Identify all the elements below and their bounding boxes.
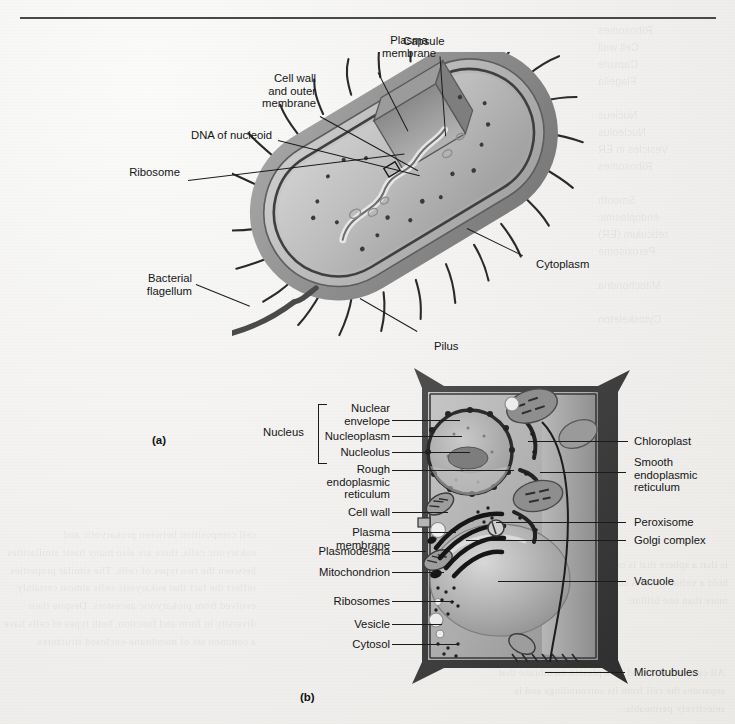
label-peroxisome: Peroxisome bbox=[634, 516, 694, 529]
leader-nuclear-envelope bbox=[392, 420, 460, 421]
label-nucleus-group: Nucleus bbox=[263, 426, 304, 439]
plasmodesma-channel bbox=[418, 518, 430, 527]
label-capsule: Capsule bbox=[403, 35, 444, 48]
label-nuclear-envelope: Nuclear envelope bbox=[330, 402, 390, 427]
label-nucleolus: Nucleolus bbox=[322, 446, 390, 459]
leader-plasmodesma bbox=[392, 551, 426, 552]
label-cell-wall-b: Cell wall bbox=[320, 506, 390, 519]
leader-nucleolus bbox=[392, 452, 470, 453]
leader-vacuole bbox=[498, 581, 626, 582]
label-ribosomes-b: Ribosomes bbox=[318, 595, 390, 608]
leader-cytosol bbox=[392, 644, 458, 645]
label-bacterial-flagellum: Bacterial flagellum bbox=[110, 272, 192, 297]
label-golgi-complex: Golgi complex bbox=[634, 534, 706, 547]
label-mitochondrion: Mitochondrion bbox=[296, 566, 390, 579]
label-rough-er: Rough endoplasmic reticulum bbox=[300, 463, 390, 501]
label-smooth-er: Smooth endoplasmic reticulum bbox=[634, 456, 697, 494]
plant-cell-illustration bbox=[392, 362, 642, 692]
label-cytosol: Cytosol bbox=[332, 638, 390, 651]
label-ribosome: Ribosome bbox=[100, 166, 180, 179]
label-pilus: Pilus bbox=[434, 340, 459, 353]
leader-golgi-complex bbox=[466, 540, 626, 541]
figure-a-caption: (a) bbox=[152, 434, 166, 446]
leader-peroxisome bbox=[496, 522, 626, 523]
label-dna-nucleoid: DNA of nucleoid bbox=[172, 129, 272, 142]
figure-b-caption: (b) bbox=[300, 691, 315, 703]
leader-chloroplast bbox=[528, 441, 628, 442]
label-vesicle: Vesicle bbox=[334, 618, 390, 631]
leader-vesicle bbox=[392, 624, 442, 625]
leader-smooth-er bbox=[540, 472, 626, 473]
label-cytoplasm: Cytoplasm bbox=[536, 258, 589, 271]
label-chloroplast: Chloroplast bbox=[634, 435, 691, 448]
nucleolus bbox=[448, 447, 488, 469]
leader-microtubules bbox=[545, 672, 625, 673]
label-nucleoplasm: Nucleoplasm bbox=[308, 430, 390, 443]
leader-cell-wall-b bbox=[392, 512, 448, 513]
leader-plasma-membrane-b bbox=[392, 532, 456, 533]
leader-nucleoplasm bbox=[392, 436, 462, 437]
leader-rough-er bbox=[392, 470, 514, 471]
label-microtubules: Microtubules bbox=[634, 666, 698, 679]
label-plasmodesma: Plasmodesma bbox=[300, 545, 390, 558]
label-cell-wall-a: Cell wall and outer membrane bbox=[212, 72, 316, 110]
label-vacuole: Vacuole bbox=[634, 575, 674, 588]
leader-mitochondrion bbox=[392, 572, 444, 573]
leader-ribosomes-b bbox=[392, 601, 454, 602]
